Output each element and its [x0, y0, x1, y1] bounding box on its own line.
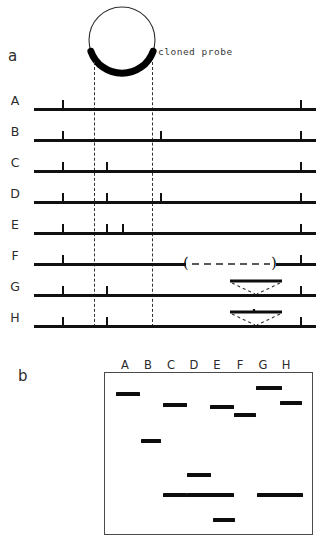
gel-band	[257, 493, 281, 497]
insertion-loop	[228, 278, 284, 298]
restriction-site-tick	[300, 255, 302, 266]
map-row-g	[0, 286, 324, 308]
restriction-site-tick	[300, 224, 302, 235]
cloned-probe-arc	[91, 51, 153, 73]
map-row-e	[0, 224, 324, 246]
restriction-site-tick	[300, 131, 302, 142]
gel-band	[279, 493, 303, 497]
restriction-site-tick	[62, 193, 64, 204]
restriction-site-tick	[106, 193, 108, 204]
restriction-site-tick	[62, 286, 64, 297]
restriction-site-tick	[122, 224, 124, 235]
chromosome-line	[34, 108, 316, 111]
deletion-bracket-close: )	[271, 258, 277, 268]
restriction-site-tick	[300, 286, 302, 297]
gel-band	[187, 473, 211, 477]
panel-b-letter: b	[18, 367, 28, 385]
restriction-site-tick	[106, 224, 108, 235]
chromosome-line	[34, 201, 316, 204]
deletion-dashed-span	[192, 261, 270, 267]
restriction-site-tick	[300, 162, 302, 173]
figure-root: a cloned probe A B C	[0, 0, 324, 548]
gel-lane-label-d: D	[187, 358, 201, 372]
chromosome-line	[276, 263, 316, 266]
gel-band	[163, 403, 187, 407]
map-row-f: ( )	[0, 255, 324, 277]
map-row-c	[0, 162, 324, 184]
gel-band	[187, 493, 211, 497]
gel-band	[210, 405, 234, 409]
restriction-site-tick	[106, 317, 108, 328]
gel-band	[256, 386, 282, 390]
gel-lane-label-f: F	[233, 358, 247, 372]
restriction-site-tick	[62, 255, 64, 266]
restriction-site-tick	[300, 193, 302, 204]
gel-lane-label-h: H	[279, 358, 293, 372]
map-row-d	[0, 193, 324, 215]
gel-band	[210, 493, 234, 497]
gel-lane-label-e: E	[210, 358, 224, 372]
cloned-probe-label: cloned probe	[158, 46, 233, 57]
gel-band	[163, 493, 187, 497]
chromosome-line	[34, 170, 316, 173]
restriction-site-tick	[106, 162, 108, 173]
restriction-site-tick	[62, 131, 64, 142]
map-row-a	[0, 100, 324, 122]
gel-band	[234, 413, 256, 417]
map-row-h	[0, 317, 324, 339]
restriction-site-tick	[62, 317, 64, 328]
restriction-site-tick	[62, 100, 64, 111]
gel-panel	[104, 372, 313, 535]
chromosome-line	[34, 139, 316, 142]
restriction-site-tick	[106, 286, 108, 297]
gel-band	[280, 401, 302, 405]
map-row-b	[0, 131, 324, 153]
gel-lane-label-b: B	[141, 358, 155, 372]
panel-a-letter: a	[8, 47, 17, 65]
chromosome-line	[34, 263, 186, 266]
gel-lane-label-g: G	[256, 358, 270, 372]
restriction-site-tick	[300, 100, 302, 111]
gel-lane-label-a: A	[118, 358, 132, 372]
gel-band	[116, 392, 140, 396]
gel-lane-label-c: C	[164, 358, 178, 372]
restriction-site-tick	[300, 317, 302, 328]
insertion-loop	[228, 309, 284, 329]
gel-band	[213, 518, 235, 522]
restriction-site-tick	[160, 193, 162, 204]
gel-band	[141, 439, 161, 443]
restriction-site-tick	[62, 224, 64, 235]
chromosome-line	[34, 232, 316, 235]
restriction-site-tick	[160, 131, 162, 142]
restriction-site-tick	[62, 162, 64, 173]
deletion-bracket-open: (	[183, 258, 189, 268]
